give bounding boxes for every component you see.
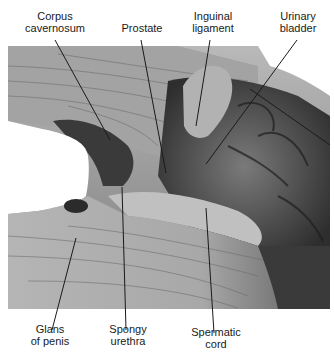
label-prostate: Prostate bbox=[112, 22, 172, 34]
leader-spongy-urethra bbox=[122, 187, 126, 330]
leader-glans-of-penis bbox=[52, 238, 76, 330]
leader-urinary-bladder-2 bbox=[250, 89, 330, 145]
leader-inguinal-ligament bbox=[196, 40, 210, 126]
label-inguinal-ligament: Inguinal ligament bbox=[183, 10, 243, 34]
label-corpus-cavernosum: Corpus cavernosum bbox=[20, 10, 90, 34]
leader-lines bbox=[0, 0, 334, 356]
label-spermatic-cord: Spermatic cord bbox=[184, 326, 248, 350]
anatomy-figure: Corpus cavernosum Prostate Inguinal liga… bbox=[0, 0, 334, 356]
leader-spermatic-cord bbox=[206, 208, 214, 333]
leader-prostate bbox=[141, 40, 166, 173]
leader-urinary-bladder bbox=[206, 40, 297, 164]
label-glans-of-penis: Glans of penis bbox=[20, 323, 80, 347]
label-spongy-urethra: Spongy urethra bbox=[98, 323, 158, 347]
leader-corpus-cavernosum bbox=[55, 40, 110, 140]
label-urinary-bladder: Urinary bladder bbox=[268, 10, 328, 34]
